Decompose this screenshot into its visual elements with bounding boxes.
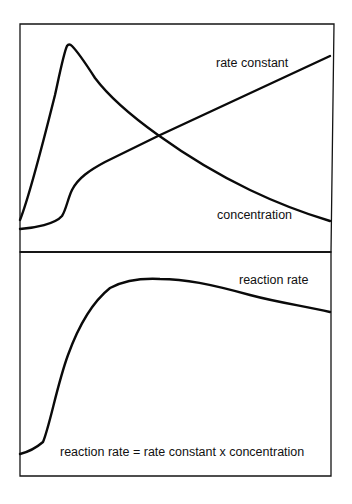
rate-constant-curve [20,56,330,229]
reaction-rate-label: reaction rate [239,273,309,287]
reaction-rate-diagram: rate constant concentration reaction rat… [0,0,352,504]
concentration-label: concentration [217,208,292,222]
reaction-rate-curve [20,279,330,454]
rate-constant-label: rate constant [216,56,289,70]
equation-label: reaction rate = rate constant x concentr… [60,445,304,459]
concentration-curve [20,45,330,222]
